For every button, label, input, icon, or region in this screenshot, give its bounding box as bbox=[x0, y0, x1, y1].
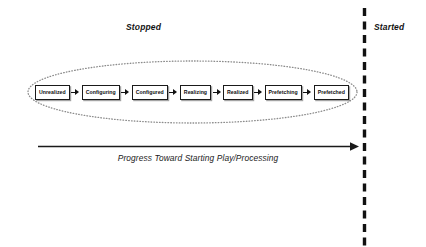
state-box-label: Configured bbox=[136, 90, 164, 95]
state-box-prefetching[interactable]: Prefetching bbox=[265, 85, 302, 100]
state-box-label: Realizing bbox=[184, 90, 207, 95]
state-box-label: Unrealized bbox=[39, 90, 66, 95]
region-label-started: Started bbox=[374, 22, 404, 32]
state-box-realizing[interactable]: Realizing bbox=[180, 85, 211, 100]
progress-arrow-head bbox=[350, 142, 359, 151]
state-box-label: Prefetched bbox=[318, 90, 345, 95]
transition-arrow-icon bbox=[121, 88, 130, 97]
transition-arrow-icon bbox=[169, 88, 178, 97]
transition-arrow-icon bbox=[254, 88, 263, 97]
region-label-stopped: Stopped bbox=[126, 22, 161, 32]
state-box-configured[interactable]: Configured bbox=[132, 85, 168, 100]
transition-arrow-icon bbox=[213, 88, 222, 97]
state-box-label: Configuring bbox=[86, 90, 116, 95]
state-box-unrealized[interactable]: Unrealized bbox=[35, 85, 70, 100]
transition-arrow-icon bbox=[303, 88, 312, 97]
state-box-configuring[interactable]: Configuring bbox=[82, 85, 120, 100]
diagram-vector-layer bbox=[0, 0, 426, 247]
progress-arrow-caption: Progress Toward Starting Play/Processing bbox=[0, 153, 396, 163]
progress-arrow bbox=[38, 142, 359, 151]
state-box-label: Prefetching bbox=[269, 90, 298, 95]
state-box-realized[interactable]: Realized bbox=[223, 85, 252, 100]
transition-arrow-icon bbox=[71, 88, 80, 97]
state-box-prefetched[interactable]: Prefetched bbox=[314, 85, 349, 100]
diagram-canvas: Stopped Started Unrealized Configuring C… bbox=[0, 0, 426, 247]
state-sequence: Unrealized Configuring Configured Realiz… bbox=[35, 84, 349, 101]
state-box-label: Realized bbox=[227, 90, 248, 95]
